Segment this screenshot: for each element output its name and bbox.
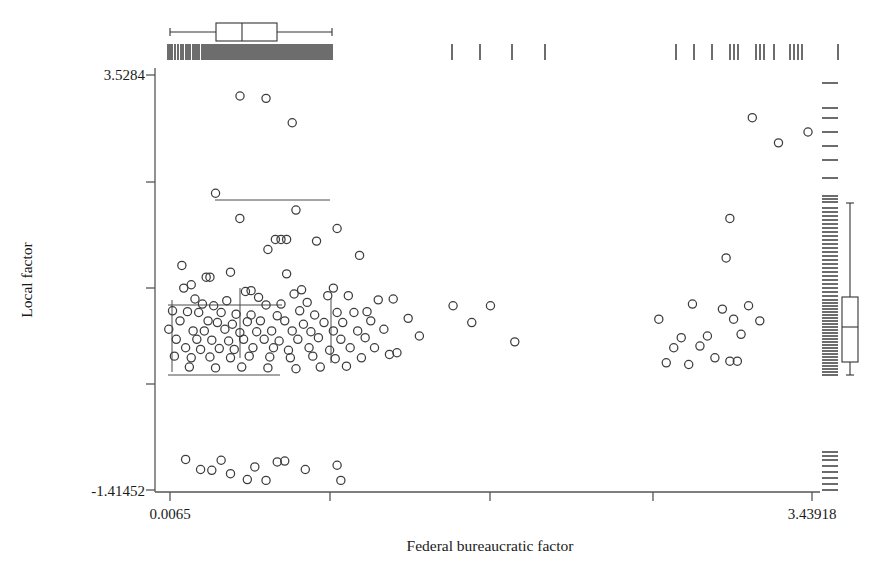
scatter-point — [226, 354, 234, 362]
scatter-point — [262, 476, 270, 484]
scatter-point — [283, 270, 291, 278]
scatter-plot-figure: 3.5284 -1.41452 0.0065 3.43918 Federal b… — [0, 0, 883, 579]
scatter-point — [342, 362, 350, 370]
scatter-point — [774, 139, 782, 147]
scatter-point — [251, 463, 259, 471]
scatter-point — [264, 364, 272, 372]
scatter-point — [182, 455, 190, 463]
scatter-point — [309, 352, 317, 360]
scatter-point — [288, 119, 296, 127]
y-axis-title: Local factor — [18, 242, 35, 318]
scatter-point — [449, 302, 457, 310]
x-axis-title: Federal bureaucratic factor — [407, 537, 575, 554]
scatter-point — [239, 335, 247, 343]
scatter-point — [305, 344, 313, 352]
scatter-point — [243, 475, 251, 483]
scatter-point — [176, 317, 184, 325]
scatter-point — [213, 318, 221, 326]
scatter-point — [655, 315, 663, 323]
scatter-point — [221, 325, 229, 333]
scatter-point — [756, 317, 764, 325]
scatter-point — [269, 344, 277, 352]
scatter-point — [211, 189, 219, 197]
scatter-point — [198, 300, 206, 308]
scatter-point — [271, 235, 279, 243]
scatter-point — [380, 325, 388, 333]
scatter-point — [210, 302, 218, 310]
scatter-point — [208, 466, 216, 474]
scatter-point — [236, 214, 244, 222]
scatter-point — [711, 354, 719, 362]
scatter-point — [404, 314, 412, 322]
scatter-point — [415, 332, 423, 340]
scatter-point — [273, 312, 281, 320]
scatter-point — [331, 355, 339, 363]
scatter-point — [299, 320, 307, 328]
scatter-point — [294, 335, 302, 343]
plot-frame — [155, 68, 820, 492]
scatter-point — [268, 327, 276, 335]
scatter-point — [677, 334, 685, 342]
scatter-point — [172, 335, 180, 343]
scatter-point — [307, 328, 315, 336]
scatter-point — [326, 346, 334, 354]
box-body — [842, 297, 858, 362]
x-axis-max-tick-label: 3.43918 — [788, 506, 837, 522]
scatter-point — [748, 114, 756, 122]
scatter-point — [363, 308, 371, 316]
scatter-point — [354, 327, 362, 335]
chart-canvas: 3.5284 -1.41452 0.0065 3.43918 Federal b… — [0, 0, 883, 579]
box-body — [216, 23, 277, 41]
scatter-point — [339, 318, 347, 326]
scatter-point — [215, 344, 223, 352]
x-axis-ticks — [170, 492, 812, 501]
scatter-point — [486, 302, 494, 310]
scatter-point — [288, 327, 296, 335]
scatter-point — [511, 338, 519, 346]
scatter-point — [275, 337, 283, 345]
scatter-point — [333, 461, 341, 469]
scatter-point — [260, 335, 268, 343]
scatter-point — [297, 286, 305, 294]
scatter-point — [247, 287, 255, 295]
scatter-point — [374, 296, 382, 304]
scatter-point — [182, 344, 190, 352]
scatter-point-group — [165, 94, 783, 484]
scatter-point — [243, 318, 251, 326]
scatter-point — [344, 292, 352, 300]
scatter-point — [393, 349, 401, 357]
scatter-point — [361, 334, 369, 342]
scatter-point — [316, 363, 324, 371]
scatter-point — [195, 308, 203, 316]
scatter-point — [168, 307, 176, 315]
scatter-point — [337, 476, 345, 484]
scatter-point — [180, 284, 188, 292]
scatter-point — [722, 254, 730, 262]
scatter-point — [200, 327, 208, 335]
scatter-point — [196, 345, 204, 353]
scatter-point — [703, 332, 711, 340]
scatter-point — [262, 94, 270, 102]
scatter-point — [204, 317, 212, 325]
scatter-point — [303, 298, 311, 306]
scatter-point — [385, 350, 393, 358]
scatter-point — [254, 293, 262, 301]
scatter-point — [320, 318, 328, 326]
scatter-point — [296, 307, 304, 315]
scatter-point — [206, 353, 214, 361]
scatter-point — [232, 310, 240, 318]
scatter-point — [685, 360, 693, 368]
scatter-point — [178, 261, 186, 269]
scatter-point — [726, 214, 734, 222]
scatter-point — [292, 206, 300, 214]
y-axis-min-tick-label: -1.41452 — [91, 483, 145, 499]
scatter-point — [196, 465, 204, 473]
scatter-point — [370, 344, 378, 352]
y-axis-max-tick-label: 3.5284 — [104, 67, 146, 83]
x-axis-min-tick-label: 0.0065 — [149, 506, 190, 522]
scatter-point — [284, 346, 292, 354]
scatter-point — [193, 335, 201, 343]
right-marginal-rug — [822, 83, 838, 490]
scatter-point — [688, 300, 696, 308]
scatter-point — [283, 235, 291, 243]
